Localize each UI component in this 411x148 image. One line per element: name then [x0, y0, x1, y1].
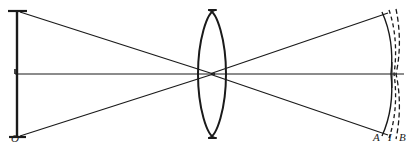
ray-top-emergent [211, 13, 388, 74]
image-surface-a-label: A [373, 132, 380, 143]
ray-top-incident [20, 12, 215, 75]
ray-bottom-emergent [211, 75, 388, 136]
image-surface-b-label: B [399, 132, 406, 143]
ray-bottom-incident [20, 74, 215, 137]
optics-diagram-canvas [0, 0, 411, 148]
optics-figure: O A I B [0, 0, 411, 148]
image-surface-i-label: I [388, 132, 392, 143]
object-label: O [11, 133, 19, 144]
